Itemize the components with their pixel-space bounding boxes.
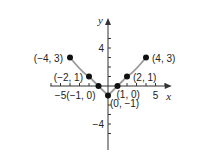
labels: −554−4xy(−4, 3)(−2, 1)(−1, 0)(0, −1)(1, … (34, 14, 176, 130)
x-tick-label: −5 (55, 90, 67, 101)
point-label: (−4, 3) (34, 53, 63, 64)
point-label: (−2, 1) (54, 72, 83, 83)
point-label: (−1, 0) (66, 90, 95, 101)
data-point (67, 55, 73, 61)
y-axis-arrow (105, 18, 111, 25)
x-axis-arrow (165, 83, 172, 89)
data-point (86, 74, 92, 80)
x-tick-label: 5 (153, 90, 159, 101)
data-point (124, 74, 130, 80)
point-label: (4, 3) (152, 53, 175, 64)
axes (50, 18, 172, 150)
point-label: (2, 1) (133, 72, 156, 83)
y-axis-label: y (97, 14, 103, 26)
chart: −554−4xy(−4, 3)(−2, 1)(−1, 0)(0, −1)(1, … (0, 0, 217, 161)
x-axis-label: x (165, 90, 171, 102)
y-tick-label: 4 (98, 43, 104, 54)
data-point (143, 55, 149, 61)
y-tick-label: −4 (93, 119, 105, 130)
point-label: (1, 0) (117, 89, 140, 100)
data-point (96, 83, 102, 89)
